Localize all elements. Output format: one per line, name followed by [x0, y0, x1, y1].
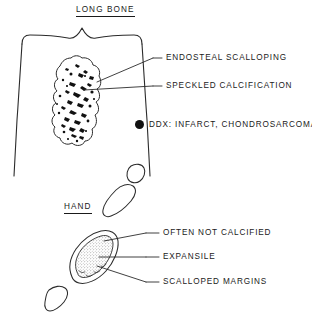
- label-speckled-calcification: SPECKLED CALCIFICATION: [166, 82, 292, 90]
- hand-expansile-lesion: [76, 235, 113, 277]
- diagram-canvas: LONG BONE HAND ENDOSTEAL SCALLOPING SPEC…: [0, 0, 312, 316]
- section-title-long-bone: LONG BONE: [76, 6, 135, 17]
- label-scalloped-margins: SCALLOPED MARGINS: [163, 278, 267, 286]
- long-bone-lesion: [52, 56, 101, 146]
- section-title-hand: HAND: [64, 203, 92, 214]
- label-expansile: EXPANSILE: [163, 253, 216, 261]
- label-ddx: DDX: INFARCT, CHONDROSARCOMA: [149, 121, 312, 129]
- label-often-not-calcified: OFTEN NOT CALCIFIED: [163, 229, 271, 237]
- hand-phalanges: [45, 164, 145, 311]
- medical-illustration: [0, 0, 312, 316]
- label-endosteal-scalloping: ENDOSTEAL SCALLOPING: [166, 54, 287, 62]
- ddx-bullet-icon: [135, 120, 144, 129]
